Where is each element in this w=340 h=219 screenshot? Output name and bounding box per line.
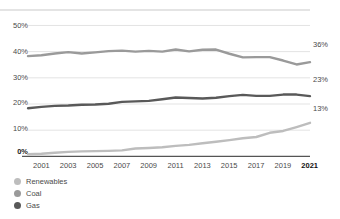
legend-item-coal[interactable]: Coal: [14, 188, 67, 199]
x-axis-tick-2019: 2019: [275, 161, 292, 170]
legend-dot-renewables-icon: [14, 178, 21, 185]
y-axis-tick-50: 50%: [2, 22, 28, 30]
x-axis-tick-2007: 2007: [114, 161, 131, 170]
end-label-renewables: 13%: [313, 104, 328, 113]
x-axis-tick-2013: 2013: [194, 161, 211, 170]
legend-label-coal: Coal: [26, 189, 41, 198]
x-axis-tick-2015: 2015: [221, 161, 238, 170]
y-axis-tick-30: 30%: [2, 74, 28, 82]
x-axis-tick-2009: 2009: [140, 161, 157, 170]
x-axis-tick-2003: 2003: [60, 161, 77, 170]
x-axis-tick-2011: 2011: [168, 161, 184, 170]
end-label-coal: 36%: [313, 40, 328, 49]
y-axis-tick-20: 20%: [2, 99, 28, 107]
x-axis-tick-2005: 2005: [87, 161, 104, 170]
series-line-gas: [28, 95, 310, 109]
x-axis-tick-2017: 2017: [248, 161, 265, 170]
legend-item-gas[interactable]: Gas: [14, 200, 67, 211]
energy-mix-line-chart: 50% 40% 30% 20% 10% 0% 36% 23% 13% 20: [0, 0, 340, 219]
y-axis-tick-40: 40%: [2, 48, 28, 56]
x-axis-tick-2021: 2021: [301, 161, 318, 170]
plot-area: [28, 8, 310, 152]
x-axis-tick-2001: 2001: [33, 161, 50, 170]
legend-dot-gas-icon: [14, 202, 21, 209]
y-axis-tick-10: 10%: [2, 125, 28, 133]
series-line-renewables: [28, 123, 310, 154]
legend-label-gas: Gas: [26, 201, 40, 210]
end-label-gas: 23%: [313, 75, 328, 84]
chart-legend: Renewables Coal Gas: [14, 176, 67, 212]
legend-item-renewables[interactable]: Renewables: [14, 176, 67, 187]
legend-label-renewables: Renewables: [26, 177, 67, 186]
legend-dot-coal-icon: [14, 190, 21, 197]
chart-canvas: [28, 8, 310, 152]
y-axis-tick-0: 0%: [2, 148, 28, 156]
